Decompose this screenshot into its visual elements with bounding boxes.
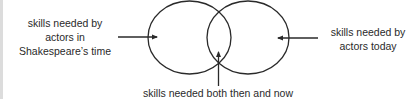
left-set-label-line-2: actors in: [15, 30, 115, 44]
left-set-label-line-1: skills needed by: [15, 16, 115, 30]
intersection-label: skills needed both then and now: [128, 86, 308, 99]
right-set-ellipse: [207, 1, 289, 74]
left-set-label-line-3: Shakespeare’s time: [15, 44, 115, 58]
left-set-label: skills needed by actors in Shakespeare’s…: [15, 16, 115, 58]
right-set-label-line-1: skills needed by: [322, 25, 414, 39]
right-set-label-line-2: actors today: [322, 39, 414, 53]
intersection-label-text: skills needed both then and now: [128, 86, 308, 99]
right-set-label: skills needed by actors today: [322, 25, 414, 53]
